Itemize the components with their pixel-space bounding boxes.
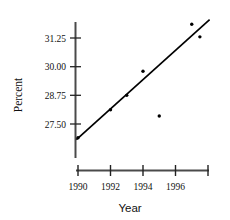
data-point: [76, 136, 79, 139]
y-axis-title: Percent: [12, 77, 24, 112]
x-tick-label-1996: 1996: [166, 182, 185, 192]
y-tick-label-30-00: 30.00: [45, 62, 67, 72]
data-point: [141, 70, 144, 73]
y-tick-label-27-50: 27.50: [45, 120, 67, 130]
scatter-chart: 31.25 30.00 28.75 27.50 Percent 1990 199…: [0, 0, 230, 220]
x-tick-label-1992: 1992: [101, 182, 120, 192]
x-tick-label-1990: 1990: [69, 182, 88, 192]
y-tick-label-28-75: 28.75: [45, 91, 67, 101]
plot-layer: [76, 20, 209, 140]
data-point: [158, 114, 161, 117]
data-point: [125, 94, 128, 97]
trend-line: [76, 20, 209, 140]
x-tick-label-1994: 1994: [134, 182, 153, 192]
chart-canvas: 31.25 30.00 28.75 27.50 Percent 1990 199…: [0, 0, 230, 220]
x-axis-title: Year: [118, 202, 141, 214]
data-point: [109, 108, 112, 111]
data-point: [190, 23, 193, 26]
data-point: [198, 35, 201, 38]
y-tick-label-31-25: 31.25: [45, 34, 67, 44]
